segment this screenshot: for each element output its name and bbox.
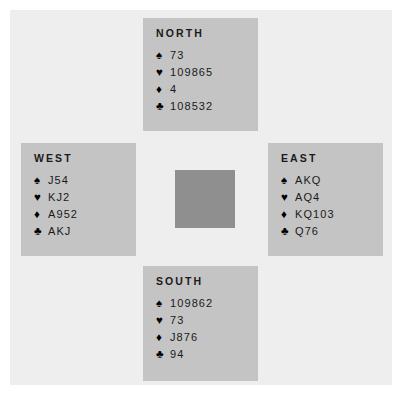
suit-row-north-hearts: ♥ 109865 [156, 64, 258, 81]
suit-row-west-diamonds: ♦ A952 [34, 206, 136, 223]
suit-row-west-clubs: ♣ AKJ [34, 223, 136, 240]
hand-label-south: SOUTH [156, 275, 258, 288]
cards-south-spades: 109862 [170, 295, 213, 312]
cards-east-diamonds: KQ103 [295, 206, 335, 223]
bridge-hand-diagram: NORTH ♠ 73 ♥ 109865 ♦ 4 ♣ 108532 WEST ♠ … [0, 0, 404, 393]
spade-icon: ♠ [281, 172, 295, 189]
suit-row-west-hearts: ♥ KJ2 [34, 189, 136, 206]
heart-icon: ♥ [156, 64, 170, 81]
center-square [175, 170, 235, 228]
spade-icon: ♠ [34, 172, 48, 189]
suit-row-east-hearts: ♥ AQ4 [281, 189, 383, 206]
suit-row-east-clubs: ♣ Q76 [281, 223, 383, 240]
suit-row-north-clubs: ♣ 108532 [156, 98, 258, 115]
cards-north-spades: 73 [170, 47, 184, 64]
club-icon: ♣ [34, 223, 48, 240]
suit-row-north-spades: ♠ 73 [156, 47, 258, 64]
cards-west-clubs: AKJ [48, 223, 71, 240]
cards-east-hearts: AQ4 [295, 189, 320, 206]
suit-row-east-spades: ♠ AKQ [281, 172, 383, 189]
diamond-icon: ♦ [281, 206, 295, 223]
suit-row-south-spades: ♠ 109862 [156, 295, 258, 312]
heart-icon: ♥ [34, 189, 48, 206]
diamond-icon: ♦ [34, 206, 48, 223]
suit-row-east-diamonds: ♦ KQ103 [281, 206, 383, 223]
diamond-icon: ♦ [156, 329, 170, 346]
cards-west-diamonds: A952 [48, 206, 78, 223]
cards-south-hearts: 73 [170, 312, 184, 329]
cards-north-diamonds: 4 [170, 81, 177, 98]
cards-west-spades: J54 [48, 172, 69, 189]
cards-east-clubs: Q76 [295, 223, 319, 240]
cards-south-diamonds: J876 [170, 329, 198, 346]
hand-panel-west: WEST ♠ J54 ♥ KJ2 ♦ A952 ♣ AKJ [21, 143, 136, 256]
cards-east-spades: AKQ [295, 172, 322, 189]
cards-west-hearts: KJ2 [48, 189, 70, 206]
heart-icon: ♥ [156, 312, 170, 329]
spade-icon: ♠ [156, 295, 170, 312]
suit-row-west-spades: ♠ J54 [34, 172, 136, 189]
hand-panel-north: NORTH ♠ 73 ♥ 109865 ♦ 4 ♣ 108532 [143, 18, 258, 131]
club-icon: ♣ [156, 346, 170, 363]
hand-panel-south: SOUTH ♠ 109862 ♥ 73 ♦ J876 ♣ 94 [143, 266, 258, 381]
club-icon: ♣ [156, 98, 170, 115]
diamond-icon: ♦ [156, 81, 170, 98]
cards-south-clubs: 94 [170, 346, 184, 363]
cards-north-hearts: 109865 [170, 64, 213, 81]
suit-row-south-clubs: ♣ 94 [156, 346, 258, 363]
suit-row-north-diamonds: ♦ 4 [156, 81, 258, 98]
hand-label-west: WEST [34, 152, 136, 165]
hand-label-east: EAST [281, 152, 383, 165]
suit-row-south-diamonds: ♦ J876 [156, 329, 258, 346]
club-icon: ♣ [281, 223, 295, 240]
heart-icon: ♥ [281, 189, 295, 206]
spade-icon: ♠ [156, 47, 170, 64]
hand-panel-east: EAST ♠ AKQ ♥ AQ4 ♦ KQ103 ♣ Q76 [268, 143, 383, 256]
cards-north-clubs: 108532 [170, 98, 213, 115]
hand-label-north: NORTH [156, 27, 258, 40]
suit-row-south-hearts: ♥ 73 [156, 312, 258, 329]
